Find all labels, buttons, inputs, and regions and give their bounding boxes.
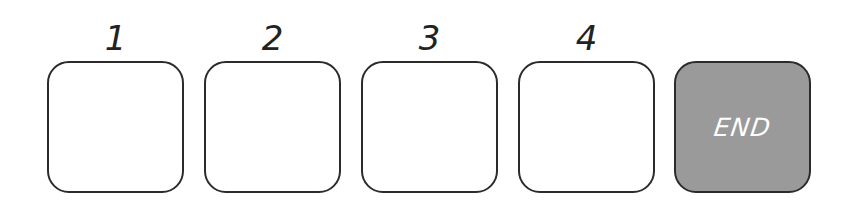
slot-box-1[interactable] [47,61,184,193]
slot-number-4: 4 [518,18,655,58]
slot-box-4[interactable] [518,61,655,193]
slot-number-2: 2 [204,18,341,58]
end-label: END [674,113,811,142]
slot-box-3[interactable] [361,61,498,193]
slot-box-2[interactable] [204,61,341,193]
end-box: END [674,61,811,193]
slot-number-3: 3 [361,18,498,58]
slot-number-1: 1 [47,18,184,58]
